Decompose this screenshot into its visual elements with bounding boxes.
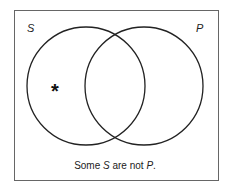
caption: Some S are not P. bbox=[74, 160, 156, 171]
label-p: P bbox=[196, 22, 204, 34]
venn-diagram: S P * Some S are not P. bbox=[0, 0, 229, 190]
asterisk-marker-icon: * bbox=[51, 80, 59, 102]
label-s: S bbox=[27, 22, 35, 34]
